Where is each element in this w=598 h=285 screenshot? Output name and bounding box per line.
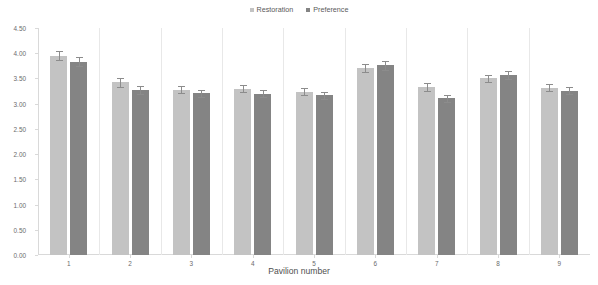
x-tick-mark [314, 255, 315, 258]
error-bar-cap-lower [301, 95, 308, 96]
plot-area: 0.000.501.001.502.002.503.003.504.004.50… [38, 28, 590, 255]
error-bar-cap-lower [485, 82, 492, 83]
error-bar-cap-lower [321, 99, 328, 100]
y-tick-label: 2.50 [14, 125, 26, 132]
x-tick-mark [498, 255, 499, 258]
y-tick-mark [35, 78, 38, 79]
error-bar-line [385, 61, 386, 70]
error-bar-cap-upper [301, 88, 308, 89]
error-bar-cap-upper [56, 51, 63, 52]
error-bar-cap-upper [240, 85, 247, 86]
bar-preference-5[interactable] [316, 95, 333, 255]
error-bar-line [201, 90, 202, 97]
x-tick-mark [130, 255, 131, 258]
error-bar-line [427, 83, 428, 90]
legend-swatch-icon [250, 8, 254, 12]
bar-restoration-5[interactable] [296, 92, 313, 255]
bar-restoration-1[interactable] [50, 56, 67, 255]
bar-preference-9[interactable] [561, 91, 578, 255]
error-bar-cap-upper [260, 90, 267, 91]
error-bar-line [549, 84, 550, 91]
error-bar-cap-upper [198, 90, 205, 91]
bar-restoration-8[interactable] [480, 78, 497, 255]
error-bar-cap-lower [260, 97, 267, 98]
error-bar-cap-lower [178, 93, 185, 94]
error-bar-cap-lower [505, 79, 512, 80]
legend-item-restoration[interactable]: Restoration [250, 5, 294, 14]
y-tick-mark [35, 154, 38, 155]
group-separator-line [161, 28, 162, 255]
error-bar-cap-upper [505, 71, 512, 72]
legend-item-label: Preference [313, 5, 348, 14]
error-bar-line [569, 87, 570, 94]
y-axis-line [38, 28, 39, 255]
group-separator-line [345, 28, 346, 255]
legend-item-label: Restoration [257, 5, 294, 14]
y-tick-mark [35, 104, 38, 105]
error-bar-cap-lower [424, 91, 431, 92]
error-bar-cap-upper [137, 86, 144, 87]
bar-preference-1[interactable] [70, 62, 87, 255]
y-tick-label: 1.00 [14, 201, 26, 208]
group-separator-line [222, 28, 223, 255]
y-tick-mark [35, 230, 38, 231]
error-bar-cap-lower [137, 94, 144, 95]
error-bar-cap-lower [382, 70, 389, 71]
bar-restoration-6[interactable] [357, 68, 374, 255]
y-tick-mark [35, 53, 38, 54]
x-tick-mark [437, 255, 438, 258]
legend-item-preference[interactable]: Preference [306, 5, 348, 14]
bar-preference-6[interactable] [377, 65, 394, 255]
bar-restoration-7[interactable] [418, 87, 435, 255]
y-tick-label: 2.00 [14, 151, 26, 158]
error-bar-cap-upper [444, 95, 451, 96]
x-axis-title: Pavilion number [0, 266, 598, 276]
group-separator-line [529, 28, 530, 255]
x-tick-mark [191, 255, 192, 258]
legend-swatch-icon [306, 8, 310, 12]
error-bar-line [365, 64, 366, 72]
error-bar-line [508, 71, 509, 79]
bar-restoration-2[interactable] [112, 82, 129, 255]
error-bar-cap-lower [198, 97, 205, 98]
error-bar-cap-upper [566, 87, 573, 88]
bar-restoration-9[interactable] [541, 88, 558, 255]
error-bar-cap-upper [485, 75, 492, 76]
bar-preference-7[interactable] [438, 98, 455, 255]
error-bar-cap-upper [117, 78, 124, 79]
y-tick-mark [35, 129, 38, 130]
x-tick-mark [559, 255, 560, 258]
error-bar-cap-upper [546, 84, 553, 85]
x-tick-mark [69, 255, 70, 258]
error-bar-cap-upper [178, 86, 185, 87]
bar-preference-8[interactable] [500, 75, 517, 255]
y-tick-label: 3.00 [14, 100, 26, 107]
error-bar-line [140, 86, 141, 94]
group-separator-line [283, 28, 284, 255]
error-bar-line [243, 85, 244, 92]
error-bar-cap-lower [117, 87, 124, 88]
error-bar-cap-lower [566, 94, 573, 95]
error-bar-line [59, 51, 60, 60]
bar-restoration-4[interactable] [234, 89, 251, 255]
error-bar-line [263, 90, 264, 97]
error-bar-line [120, 78, 121, 86]
y-tick-label: 1.50 [14, 176, 26, 183]
bar-preference-4[interactable] [254, 94, 271, 255]
bar-restoration-3[interactable] [173, 90, 190, 255]
error-bar-cap-upper [382, 61, 389, 62]
y-tick-mark [35, 179, 38, 180]
bar-preference-2[interactable] [132, 90, 149, 255]
error-bar-cap-upper [362, 64, 369, 65]
error-bar-line [181, 86, 182, 93]
y-tick-label: 0.00 [14, 252, 26, 259]
group-separator-line [467, 28, 468, 255]
bar-chart: RestorationPreference 0.000.501.001.502.… [0, 0, 598, 285]
y-tick-label: 4.50 [14, 25, 26, 32]
bar-preference-3[interactable] [193, 93, 210, 255]
error-bar-line [79, 57, 80, 66]
y-tick-label: 3.50 [14, 75, 26, 82]
y-tick-label: 0.50 [14, 226, 26, 233]
y-tick-mark [35, 28, 38, 29]
x-tick-mark [253, 255, 254, 258]
